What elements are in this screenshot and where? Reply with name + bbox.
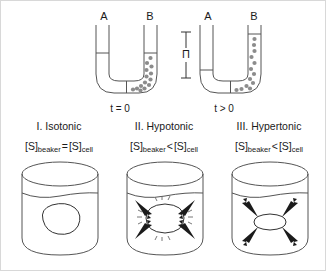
shrunken-cell bbox=[254, 214, 286, 230]
panel-isotonic-beaker bbox=[19, 160, 101, 258]
formula-left-species: S bbox=[28, 140, 35, 152]
panel-hypotonic-title: II. Hypotonic bbox=[110, 121, 218, 132]
panel-hypertonic-beaker bbox=[229, 160, 311, 258]
formula-right-species: S bbox=[282, 140, 289, 152]
osmotic-pressure-symbol: Π bbox=[179, 49, 193, 60]
panel-hypertonic-formula: [S]beaker<[S]cell bbox=[215, 141, 323, 152]
tube-initial-arm-b-label: B bbox=[143, 11, 157, 22]
panel-isotonic-title: I. Isotonic bbox=[5, 121, 113, 132]
formula-right-subscript: cell bbox=[82, 145, 93, 154]
tube-equilibrium-time-label: t > 0 bbox=[194, 104, 254, 114]
formula-relation: < bbox=[167, 140, 173, 152]
tube-initial-time-label: t = 0 bbox=[90, 104, 150, 114]
tube-equilibrium-arm-b-label: B bbox=[247, 11, 261, 22]
panel-hypotonic-beaker bbox=[124, 160, 206, 258]
tube-initial-arm-a-label: A bbox=[97, 11, 111, 22]
formula-right-subscript: cell bbox=[187, 145, 198, 154]
formula-left-subscript: beaker bbox=[248, 145, 271, 154]
tube-initial-solute-particles bbox=[93, 24, 165, 100]
panel-hypertonic-title: III. Hypertonic bbox=[215, 121, 323, 132]
panel-hypotonic-formula: [S]beaker<[S]cell bbox=[110, 141, 218, 152]
tube-equilibrium-solute-particles bbox=[197, 24, 269, 100]
formula-right-species: S bbox=[177, 140, 184, 152]
panel-isotonic: I. Isotonic [S]beaker=[S]cell bbox=[5, 121, 113, 258]
formula-relation: < bbox=[272, 140, 278, 152]
osmosis-diagram: A B bbox=[0, 0, 326, 271]
formula-relation: = bbox=[62, 140, 68, 152]
formula-left-subscript: beaker bbox=[38, 145, 61, 154]
panel-isotonic-formula: [S]beaker=[S]cell bbox=[5, 141, 113, 152]
burst-marks bbox=[137, 196, 193, 241]
efflux-arrows bbox=[242, 198, 298, 246]
formula-left-subscript: beaker bbox=[143, 145, 166, 154]
formula-right-species: S bbox=[72, 140, 79, 152]
panel-hypertonic: III. Hypertonic [S]beaker<[S]cell bbox=[215, 121, 323, 258]
tube-equilibrium-arm-a-label: A bbox=[201, 11, 215, 22]
swollen-cell bbox=[146, 204, 184, 233]
formula-right-subscript: cell bbox=[292, 145, 303, 154]
formula-left-species: S bbox=[133, 140, 140, 152]
panel-hypotonic: II. Hypotonic [S]beaker<[S]cell bbox=[110, 121, 218, 258]
formula-left-species: S bbox=[238, 140, 245, 152]
